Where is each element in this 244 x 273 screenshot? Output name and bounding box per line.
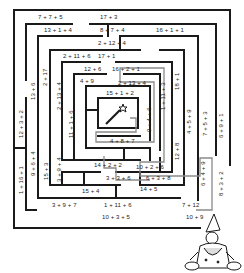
maze-label: 9 + 6 + 4 [30,151,37,176]
maze-label: 11 + 1 + 6 [68,110,75,138]
maze-label: 6 + 9 + 1 [218,113,225,138]
maze-label: 12 + 3 + 2 [18,110,25,138]
maze-label: 12 + 8 [174,143,181,160]
maze-label: 6 + 3 + 8 [146,175,171,182]
maze-label: 16 + 2 + 1 [112,66,140,73]
maze-label: 1 + 16 + 1 [18,166,25,194]
maze-label: 15 + 3 [43,163,50,180]
maze-label: 17 + 3 [100,14,117,21]
maze-label: 3 + 3 + 6 [106,175,131,182]
maze-puzzle: 7 + 7 + 5 17 + 3 13 + 1 + 4 8 + 7 + 4 16… [0,0,244,273]
maze-label: 13 + 1 + 4 [44,27,72,34]
maze-label: 4 + 8 + 7 [110,138,135,145]
maze-label: 1 + 11 + 6 [104,202,132,209]
maze-label: 6 + 4 + 9 [200,161,207,186]
maze-label: 8 + 3 + 2 [218,171,225,196]
maze-label: 7 + 12 [182,202,199,209]
maze-label: 2 + 17 [42,69,49,86]
maze-label: 12 + 6 [84,66,101,73]
maze-label: 4 + 9 [80,78,94,85]
maze-label: 8 + 7 + 4 [100,27,125,34]
maze-label: 3 + 9 + 4 [56,157,63,182]
maze-label: 16 + 1 + 1 [156,27,184,34]
maze-label: 7 + 5 + 3 [202,111,209,136]
maze-label: 2 + 12 + 4 [98,40,126,47]
maze-label: 10 + 9 [186,214,203,221]
maze-label: 17 + 1 [98,53,115,60]
maze-label: 4 + 5 + 9 [186,109,193,134]
maze-label: 10 + 3 + 5 [102,214,130,221]
maze-label: 10 + 2 + 6 [136,164,164,171]
magic-wand-icon [106,104,127,124]
maze-label: 2 + 11 + 6 [63,53,91,60]
maze-label: 18 + 1 [174,73,181,90]
maze-label: 14 + 5 [140,186,157,193]
maze-label: 13 + 6 [30,83,37,100]
maze-label: 3 + 9 + 7 [52,202,77,209]
maze-label: 1 + 11 + 3 [160,82,167,110]
maze-label: 15 + 4 [82,188,99,195]
maze-label: 14 + 2 + 2 [94,162,122,169]
wizard-icon [185,214,241,270]
maze-label: 2 + 13 + 4 [56,82,63,110]
maze-label: 9 + 4 + 6 [146,107,153,132]
maze-label: 2 + 13 + 4 [118,80,146,87]
maze-label: 15 + 1 + 2 [106,90,134,97]
maze-label: 7 + 7 + 5 [38,14,63,21]
